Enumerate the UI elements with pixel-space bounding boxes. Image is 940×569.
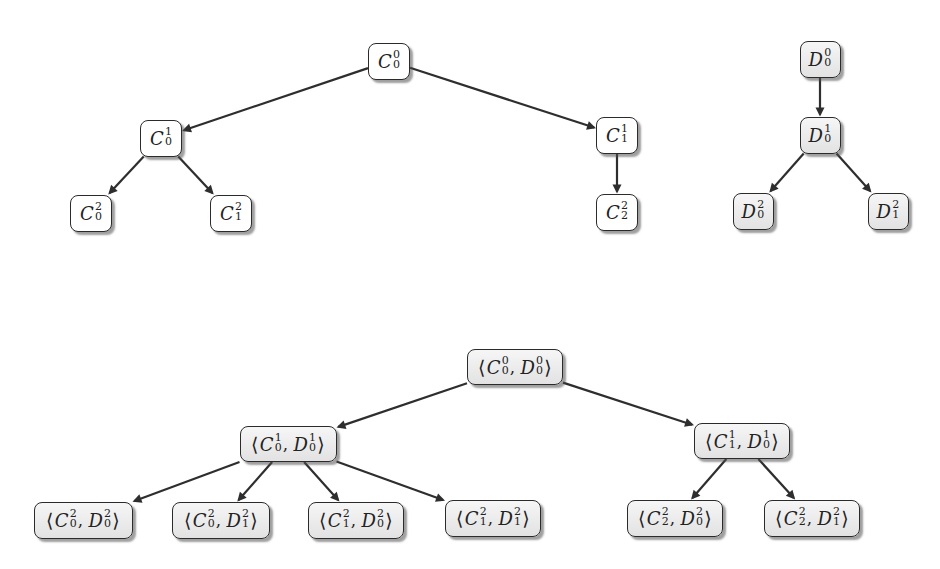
- diagram-canvas: C00C10C11C20C21C22D00D10D20D21⟨C00,D00⟩⟨…: [0, 0, 940, 569]
- subscript: 1: [729, 440, 736, 450]
- right-angle-bracket: ⟩: [522, 507, 530, 529]
- node-label: ⟨C22,D21⟩: [774, 507, 850, 529]
- comma: ,: [216, 510, 222, 530]
- subscript: 2: [662, 517, 669, 527]
- symbol-base: C: [328, 510, 342, 531]
- symbol-base: D: [226, 510, 241, 531]
- left-angle-bracket: ⟨: [705, 430, 713, 452]
- node-label: C11: [606, 125, 628, 146]
- left-angle-bracket: ⟨: [46, 509, 54, 531]
- subscript: 2: [621, 211, 628, 221]
- symbol-base: D: [498, 508, 513, 529]
- math-symbol: D21: [226, 510, 249, 531]
- comma: ,: [283, 434, 289, 454]
- math-symbol: C11: [606, 125, 628, 146]
- math-symbol: D21: [498, 508, 521, 529]
- node-label: ⟨C11,D10⟩: [704, 430, 780, 452]
- math-symbol: D21: [817, 508, 840, 529]
- symbol-base: D: [88, 510, 103, 531]
- symbol-base: C: [714, 431, 728, 452]
- tree-edge: [692, 459, 726, 498]
- arrowhead-icon: [337, 420, 347, 429]
- tree-node-p1a: ⟨C10,D10⟩: [240, 426, 337, 462]
- node-label: D20: [742, 201, 765, 222]
- subscript: 0: [393, 60, 400, 70]
- symbol-base: C: [487, 357, 501, 378]
- symbol-base: D: [293, 434, 308, 455]
- tree-edge: [134, 462, 239, 501]
- subscript: 0: [824, 58, 831, 68]
- symbol-base: C: [55, 510, 69, 531]
- comma: ,: [737, 431, 743, 451]
- symbol-base: C: [220, 203, 234, 224]
- edge-layer: [0, 0, 940, 569]
- math-symbol: C21: [220, 203, 242, 224]
- node-label: ⟨C20,D20⟩: [45, 509, 121, 531]
- right-angle-bracket: ⟩: [250, 509, 258, 531]
- tree-node-p1b: ⟨C11,D10⟩: [694, 423, 790, 459]
- arrowhead-icon: [816, 108, 825, 117]
- tree-edge: [239, 462, 272, 500]
- math-symbol: D10: [293, 434, 316, 455]
- math-symbol: C00: [487, 357, 509, 378]
- node-label: D10: [809, 125, 832, 146]
- math-symbol: C20: [55, 510, 77, 531]
- math-symbol: C10: [260, 434, 282, 455]
- symbol-base: D: [809, 125, 824, 146]
- comma: ,: [488, 508, 494, 528]
- tree-node-c02: C20: [70, 195, 112, 232]
- math-symbol: D00: [520, 357, 543, 378]
- subscript: 1: [621, 134, 628, 144]
- subscript: 0: [95, 212, 102, 222]
- math-symbol: D20: [361, 510, 384, 531]
- node-label: D00: [809, 49, 832, 70]
- tree-edge: [337, 462, 444, 500]
- comma: ,: [670, 508, 676, 528]
- math-symbol: C21: [328, 510, 350, 531]
- tree-edge: [771, 154, 804, 191]
- symbol-base: D: [742, 201, 757, 222]
- math-symbol: D00: [809, 49, 832, 70]
- tree-node-p2d: ⟨C21,D21⟩: [445, 500, 541, 537]
- subscript: 1: [242, 519, 249, 529]
- math-symbol: D20: [680, 508, 703, 529]
- math-symbol: C22: [606, 202, 628, 223]
- tree-node-c01: C10: [140, 120, 182, 157]
- node-label: D21: [877, 201, 900, 222]
- subscript: 1: [833, 517, 840, 527]
- math-symbol: C22: [784, 508, 806, 529]
- node-label: ⟨C20,D21⟩: [183, 509, 259, 531]
- math-symbol: C21: [465, 508, 487, 529]
- right-angle-bracket: ⟩: [704, 507, 712, 529]
- tree-edge: [304, 462, 338, 500]
- subscript: 0: [377, 519, 384, 529]
- arrowhead-icon: [613, 185, 622, 194]
- tree-edge: [338, 383, 467, 427]
- left-angle-bracket: ⟨: [638, 507, 646, 529]
- tree-edge: [110, 157, 144, 194]
- tree-node-d00: D00: [800, 41, 841, 78]
- comma: ,: [510, 357, 516, 377]
- left-angle-bracket: ⟨: [319, 509, 327, 531]
- node-label: C10: [150, 128, 172, 149]
- math-symbol: C10: [150, 128, 172, 149]
- symbol-base: C: [378, 51, 392, 72]
- subscript: 0: [824, 134, 831, 144]
- right-angle-bracket: ⟩: [385, 509, 393, 531]
- arrowhead-icon: [586, 121, 596, 130]
- symbol-base: D: [361, 510, 376, 531]
- tree-node-c00: C00: [368, 43, 410, 80]
- math-symbol: D20: [742, 201, 765, 222]
- symbol-base: D: [747, 431, 762, 452]
- symbol-base: D: [809, 49, 824, 70]
- tree-node-p0: ⟨C00,D00⟩: [467, 349, 563, 385]
- node-label: C21: [220, 203, 242, 224]
- symbol-base: C: [260, 434, 274, 455]
- tree-node-p2f: ⟨C22,D21⟩: [764, 500, 860, 537]
- subscript: 0: [208, 519, 215, 529]
- comma: ,: [807, 508, 813, 528]
- subscript: 0: [165, 137, 172, 147]
- tree-node-p2b: ⟨C20,D21⟩: [172, 502, 270, 539]
- tree-node-c11: C11: [596, 117, 638, 154]
- math-symbol: C00: [378, 51, 400, 72]
